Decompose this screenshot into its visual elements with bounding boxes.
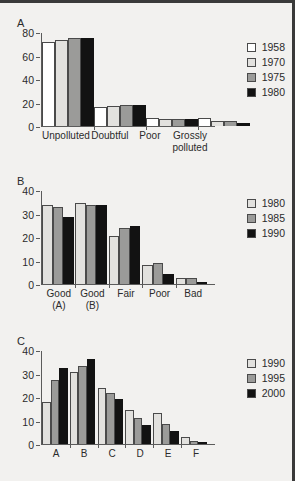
bar-c-0-2: [59, 368, 68, 444]
bar-c-1-1: [78, 366, 87, 444]
x-label-c-0: A: [42, 448, 70, 460]
bar-c-0-0: [42, 402, 51, 444]
figure-container: A 0 20 40 60 80 UnpollutedDoubtfulPoorGr…: [0, 0, 295, 481]
y-tick-a-2: 40: [22, 74, 41, 86]
bar-c-3-2: [142, 425, 151, 444]
x-axis-labels-b: Good (A)Good (B)FairPoorBad: [42, 288, 210, 311]
legend-swatch-icon-c-1: [247, 374, 256, 383]
panel-c: C 0 10 20 30 40 ABCDEF 199019952000: [0, 329, 295, 479]
panel-a: A 0 20 40 60 80 UnpollutedDoubtfulPoorGr…: [0, 11, 295, 161]
legend-label-a-3: 1980: [262, 86, 285, 98]
legend-swatch-icon-a-1: [247, 58, 256, 67]
legend-label-c-0: 1990: [262, 357, 285, 369]
legend-label-b-1: 1985: [262, 212, 285, 224]
bar-a-0-2: [68, 38, 81, 126]
y-tick-a-1: 20: [22, 98, 41, 110]
y-tick-a-0: 0: [28, 121, 41, 133]
legend-label-a-2: 1975: [262, 71, 285, 83]
legend-swatch-icon-b-2: [247, 229, 256, 238]
bar-b-1-0: [75, 203, 86, 284]
bar-groups-a: [42, 33, 209, 126]
bar-c-4-1: [162, 424, 171, 444]
bar-group-a-0: [42, 33, 94, 126]
bar-a-1-1: [107, 106, 120, 126]
bar-a-3-0: [198, 118, 211, 126]
x-axis-labels-a: UnpollutedDoubtfulPoorGrossly polluted: [42, 130, 210, 153]
bar-a-3-3: [237, 123, 250, 126]
x-axis-a: [41, 126, 215, 127]
bar-group-b-0: [42, 191, 75, 284]
legend-a: 1958197019751980: [247, 41, 285, 98]
bar-c-3-0: [125, 410, 134, 444]
bar-group-c-4: [153, 351, 181, 444]
bar-b-3-0: [142, 265, 153, 284]
x-label-c-3: D: [126, 448, 154, 460]
y-tick-c-3: 30: [22, 369, 41, 381]
bar-a-3-1: [211, 121, 224, 126]
bar-c-5-0: [181, 437, 190, 444]
legend-item-a-2: 1975: [247, 71, 285, 83]
x-label-b-3: Poor: [143, 288, 177, 311]
bar-c-2-2: [115, 399, 124, 444]
legend-swatch-icon-c-0: [247, 359, 256, 368]
bar-b-1-1: [86, 205, 97, 284]
bar-a-2-0: [146, 118, 159, 126]
bar-b-1-2: [96, 205, 107, 284]
bar-b-0-0: [42, 205, 53, 284]
bar-a-1-0: [94, 107, 107, 126]
legend-item-a-3: 1980: [247, 86, 285, 98]
bar-groups-c: [42, 351, 209, 444]
bar-b-3-2: [163, 274, 174, 284]
x-axis-labels-c: ABCDEF: [42, 448, 210, 460]
bar-group-b-3: [142, 191, 175, 284]
bar-a-2-3: [185, 119, 198, 126]
legend-item-c-2: 2000: [247, 387, 285, 399]
bar-a-2-2: [172, 119, 185, 126]
y-tick-b-3: 30: [22, 209, 41, 221]
bar-c-0-1: [51, 380, 60, 444]
bar-c-1-0: [70, 372, 79, 444]
bar-c-2-0: [98, 388, 107, 444]
bar-c-1-2: [87, 359, 96, 444]
legend-item-b-1: 1985: [247, 212, 285, 224]
y-tick-b-1: 10: [22, 256, 41, 268]
legend-item-c-0: 1990: [247, 357, 285, 369]
bar-group-b-4: [176, 191, 209, 284]
bar-group-a-3: [198, 33, 250, 126]
bar-b-2-0: [109, 236, 120, 284]
bar-b-0-2: [63, 217, 74, 284]
bar-a-0-1: [55, 40, 68, 126]
bar-c-5-1: [190, 441, 199, 444]
plot-area-a: 0 20 40 60 80: [41, 33, 209, 127]
legend-label-c-1: 1995: [262, 372, 285, 384]
x-label-b-4: Bad: [176, 288, 210, 311]
bar-c-3-1: [134, 418, 143, 444]
bar-c-5-2: [198, 442, 207, 444]
bar-b-2-1: [119, 228, 130, 284]
bar-group-c-0: [42, 351, 70, 444]
x-label-a-3: Grossly polluted: [170, 130, 210, 153]
x-label-b-2: Fair: [109, 288, 143, 311]
bar-c-2-1: [106, 393, 115, 444]
legend-swatch-icon-a-2: [247, 73, 256, 82]
bar-group-b-2: [109, 191, 142, 284]
legend-swatch-icon-a-3: [247, 88, 256, 97]
bar-a-0-0: [42, 42, 55, 126]
y-tick-c-2: 20: [22, 392, 41, 404]
legend-c: 199019952000: [247, 357, 285, 399]
y-tick-c-0: 0: [28, 439, 41, 451]
plot-area-c: 0 10 20 30 40: [41, 351, 209, 445]
y-tick-c-4: 40: [22, 345, 41, 357]
legend-swatch-icon-c-2: [247, 389, 256, 398]
x-axis-b: [41, 284, 215, 285]
bar-a-1-3: [133, 105, 146, 127]
x-label-c-4: E: [154, 448, 182, 460]
y-tick-a-3: 60: [22, 51, 41, 63]
bar-group-b-1: [75, 191, 108, 284]
bar-c-4-0: [153, 413, 162, 444]
legend-label-b-0: 1980: [262, 197, 285, 209]
y-tick-b-0: 0: [28, 279, 41, 291]
legend-label-c-2: 2000: [262, 387, 285, 399]
x-label-a-0: Unpolluted: [42, 130, 90, 153]
y-tick-a-4: 80: [22, 27, 41, 39]
